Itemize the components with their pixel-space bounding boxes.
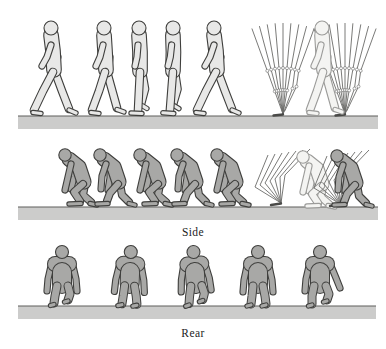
- human-figure-5: [196, 21, 239, 114]
- ground-strip-bottom: [18, 306, 376, 319]
- chimp-rear-figure-5: [305, 246, 340, 307]
- chimp-side-figure-2: [94, 149, 135, 205]
- human-figure-3: [131, 21, 147, 114]
- human-walk-sequence: [33, 21, 376, 116]
- chimp-side-figure-1: [59, 149, 97, 205]
- side-label: Side: [0, 226, 386, 238]
- figure-artwork: [0, 0, 386, 349]
- chimp-side-figure-3: [134, 149, 172, 205]
- chimp-side-figure-5: [211, 149, 249, 205]
- ground-strip-top: [18, 116, 378, 129]
- chimp-side-figure-4: [171, 149, 212, 205]
- gait-comparison-figure: Side Rear: [0, 0, 386, 349]
- human-figure-2: [91, 21, 124, 114]
- ghost-chimp-figure: [297, 151, 335, 207]
- chimp-side-walk-sequence: [59, 149, 372, 207]
- ground-strip-middle: [18, 207, 378, 220]
- chimp-rear-figure-4: [243, 246, 273, 307]
- chimp-rear-walk-sequence: [47, 245, 340, 307]
- chimp-rear-figure-2: [114, 245, 146, 307]
- chimp-rear-figure-3: [178, 245, 212, 307]
- chimp-rear-figure-1: [47, 246, 77, 306]
- human-gait-stick-diagram: [252, 21, 376, 116]
- rear-label: Rear: [0, 327, 386, 339]
- human-figure-4: [163, 21, 181, 114]
- human-figure-1: [33, 21, 76, 114]
- chimp-gait-stick-diagram: [255, 149, 372, 207]
